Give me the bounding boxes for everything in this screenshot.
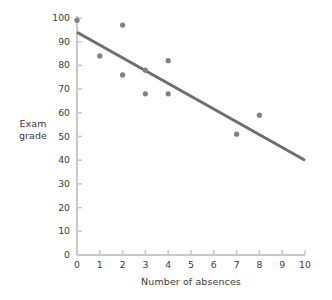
data-point xyxy=(143,68,148,73)
data-point xyxy=(257,113,262,118)
scatter-plot-figure: Exam grade Number of absences 0102030405… xyxy=(0,0,332,300)
trendline xyxy=(77,32,305,160)
data-point xyxy=(234,132,239,137)
data-point xyxy=(166,91,171,96)
data-point xyxy=(120,72,125,77)
data-point xyxy=(74,18,79,23)
trendline-path xyxy=(77,32,305,160)
data-point xyxy=(166,58,171,63)
data-point xyxy=(143,91,148,96)
data-point xyxy=(120,23,125,28)
plot-canvas xyxy=(0,0,332,300)
data-point xyxy=(97,53,102,58)
